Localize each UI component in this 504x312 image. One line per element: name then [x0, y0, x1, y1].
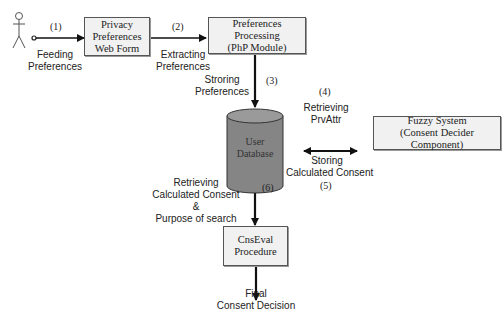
edge-label-line: Calculated Consent	[150, 189, 242, 201]
step-number-1: (1)	[50, 21, 62, 33]
preferences-processing-php-module-node[interactable]: Preferences Processing (PhP Module)	[208, 17, 306, 54]
node-label-line: Database	[225, 148, 285, 160]
stick-figure-user-icon	[13, 13, 25, 49]
node-label-line: User	[225, 136, 285, 148]
edge-label-line: Final	[216, 288, 296, 300]
edge-label-storing-preferences: Stroring Preferences	[192, 74, 252, 98]
edge-label-line: Feeding	[26, 49, 84, 61]
step-number-4: (4)	[319, 86, 331, 98]
edge-label-line: PrvAttr	[297, 114, 355, 126]
edge-label-line: Purpose of search	[150, 213, 242, 225]
step-number-5: (5)	[320, 180, 332, 192]
node-label-line: (Consent Decider Component)	[374, 127, 500, 151]
node-label-line: Fuzzy System	[407, 115, 466, 127]
edge-label-line: Stroring	[192, 74, 252, 86]
consent-architecture-diagram: Privacy Preferences Web Form Preferences…	[0, 0, 504, 312]
final-consent-decision-label: Final Consent Decision	[216, 288, 296, 312]
edge-label-line: Calculated Consent	[286, 167, 368, 179]
node-label-line: (PhP Module)	[228, 42, 287, 54]
node-label-line: Preferences	[93, 31, 142, 43]
step-number-6: (6)	[262, 182, 274, 194]
node-label-line: CnsEval	[238, 234, 274, 246]
node-label-line: Privacy	[101, 19, 133, 31]
edge-label-line: &	[150, 201, 242, 213]
edge-label-retrieving-prvattr: Retrieving PrvAttr	[297, 102, 355, 126]
edge-label-retrieving-calculated-consent: Retrieving Calculated Consent & Purpose …	[150, 177, 242, 225]
edge-label-line: Extracting	[152, 49, 214, 61]
step-number-3: (3)	[266, 75, 278, 87]
edge-label-feeding-preferences: Feeding Preferences	[26, 49, 84, 73]
edge-label-line: Preferences	[26, 61, 84, 73]
user-database-node[interactable]: User Database	[225, 136, 285, 160]
step-number-2: (2)	[172, 21, 184, 33]
node-label-line: Preferences Processing	[209, 18, 305, 42]
edge-label-line: Preferences	[192, 86, 252, 98]
privacy-preferences-web-form-node[interactable]: Privacy Preferences Web Form	[84, 17, 150, 56]
cnseval-procedure-node[interactable]: CnsEval Procedure	[223, 226, 288, 266]
edge-label-extracting-preferences: Extracting Preferences	[152, 49, 214, 73]
fuzzy-system-node[interactable]: Fuzzy System (Consent Decider Component)	[373, 116, 501, 150]
edge-label-line: Preferences	[152, 61, 214, 73]
edge-label-line: Storing	[286, 155, 368, 167]
edge-label-line: Retrieving	[297, 102, 355, 114]
edge-label-line: Consent Decision	[216, 300, 296, 312]
node-label-line: Procedure	[234, 246, 277, 258]
node-label-line: Web Form	[95, 43, 139, 55]
edge-label-line: Retrieving	[150, 177, 242, 189]
edge-label-storing-calculated-consent: Storing Calculated Consent	[286, 155, 368, 179]
